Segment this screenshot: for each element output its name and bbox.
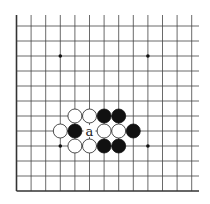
star-point	[59, 54, 63, 58]
white-stone	[68, 139, 82, 153]
black-stone	[126, 124, 140, 138]
black-stone	[68, 124, 82, 138]
board-grid	[17, 15, 200, 191]
white-stone	[112, 124, 126, 138]
black-stone	[97, 139, 111, 153]
star-point	[146, 144, 150, 148]
labels: a	[84, 124, 96, 139]
white-stone	[83, 139, 97, 153]
point-label: a	[86, 124, 94, 139]
white-stone	[83, 109, 97, 123]
white-stone	[53, 124, 67, 138]
go-board: a	[0, 0, 210, 204]
black-stone	[112, 139, 126, 153]
star-point	[59, 144, 63, 148]
black-stone	[112, 109, 126, 123]
white-stone	[97, 124, 111, 138]
star-point	[146, 54, 150, 58]
white-stone	[68, 109, 82, 123]
black-stone	[97, 109, 111, 123]
